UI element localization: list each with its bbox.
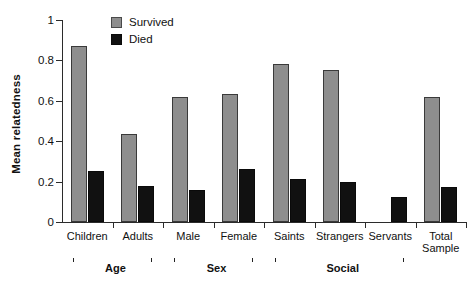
y-tick-label: 1: [0, 15, 54, 26]
y-tick-label: 0.6: [0, 96, 54, 107]
bars-layer: [62, 20, 466, 222]
x-axis-tick: [416, 222, 417, 228]
x-axis-tick: [466, 222, 467, 228]
bar-survived-total-sample: [424, 97, 440, 222]
bar-died-saints: [290, 179, 306, 222]
bar-died-children: [88, 171, 104, 222]
group-bracket-label: Social: [275, 262, 410, 274]
bar-survived-children: [71, 46, 87, 222]
legend-item-died: Died: [111, 32, 174, 46]
bar-survived-male: [172, 97, 188, 222]
x-axis-tick: [315, 222, 316, 228]
x-axis-category-label: Servants: [365, 230, 416, 242]
legend-label: Died: [129, 32, 153, 46]
bar-died-male: [189, 190, 205, 222]
bar-survived-strangers: [323, 70, 339, 222]
y-tick-label: 0.4: [0, 136, 54, 147]
x-axis-tick: [214, 222, 215, 228]
bar-died-strangers: [340, 182, 356, 222]
y-axis-tick: [56, 222, 62, 223]
y-tick-label: 0.8: [0, 55, 54, 66]
group-bracket-label: Age: [73, 262, 158, 274]
x-axis-tick: [264, 222, 265, 228]
bar-died-female: [239, 169, 255, 222]
bar-chart: Mean relatedness 1 0.8 0.6 0.4 0.2 0 Sur…: [0, 0, 473, 285]
x-axis-category-label: Female: [214, 230, 265, 242]
x-axis-category-label: Children: [62, 230, 113, 242]
black-square-icon: [111, 34, 122, 45]
bar-died-total-sample: [441, 187, 457, 222]
x-axis-tick: [163, 222, 164, 228]
legend: Survived Died: [111, 15, 174, 49]
x-axis-category-label: Adults: [113, 230, 164, 242]
gray-square-icon: [111, 17, 122, 28]
y-tick-label: 0: [0, 217, 54, 228]
bar-died-adults: [138, 186, 154, 222]
bar-survived-female: [222, 94, 238, 222]
x-axis-tick: [113, 222, 114, 228]
group-bracket-label: Sex: [174, 262, 259, 274]
x-axis-category-label: Strangers: [315, 230, 366, 242]
bar-survived-saints: [273, 64, 289, 222]
x-axis-category-label: Total Sample: [416, 230, 467, 254]
y-axis-tick-labels: 1 0.8 0.6 0.4 0.2 0: [0, 0, 54, 285]
legend-label: Survived: [129, 15, 174, 29]
x-axis-category-label: Saints: [264, 230, 315, 242]
legend-item-survived: Survived: [111, 15, 174, 29]
bar-died-servants: [391, 197, 407, 222]
x-axis-tick: [365, 222, 366, 228]
bar-survived-adults: [121, 134, 137, 222]
y-tick-label: 0.2: [0, 177, 54, 188]
group-brackets: AgeSexSocial: [62, 258, 467, 284]
x-axis-category-label: Male: [163, 230, 214, 242]
